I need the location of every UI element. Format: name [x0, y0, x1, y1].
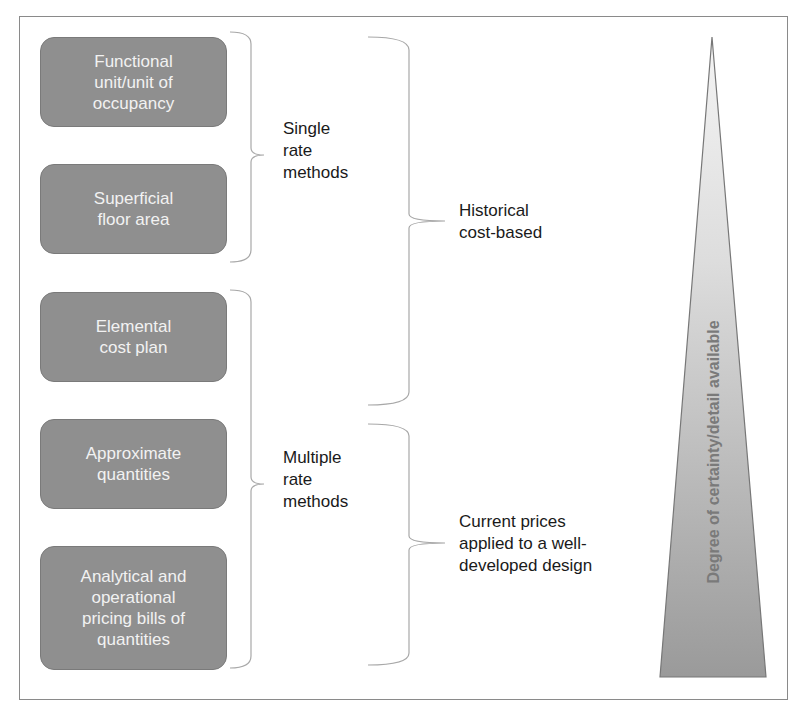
bracket-multiple-rate	[230, 290, 264, 668]
group-label-current-prices: Current prices applied to a well- develo…	[459, 511, 592, 577]
brackets	[0, 0, 811, 712]
group-label-single-rate: Single rate methods	[283, 118, 348, 184]
group-label-historical: Historical cost-based	[459, 200, 542, 244]
group-label-multiple-rate: Multiple rate methods	[283, 447, 348, 513]
wedge-label: Degree of certainty/detail available	[705, 320, 723, 583]
bracket-current-prices	[368, 424, 445, 665]
bracket-single-rate	[230, 32, 264, 262]
bracket-historical	[368, 37, 445, 405]
